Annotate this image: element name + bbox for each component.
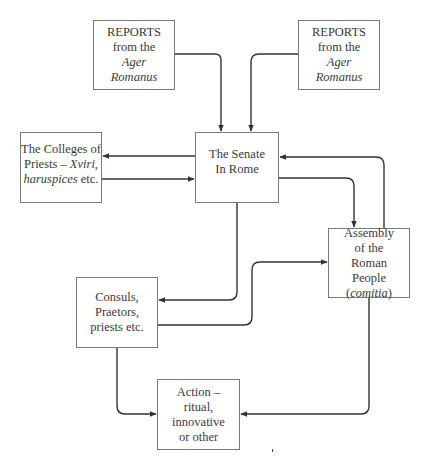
node-label-line: (comitia)	[346, 286, 392, 301]
node-label-line: Praetors,	[95, 305, 139, 320]
label-fragment: Priests –	[24, 157, 70, 171]
node-label-line: Romanus	[111, 70, 158, 85]
edge-reports-right-to-senate	[251, 54, 298, 131]
node-action: Action – ritual, innovative or other	[157, 379, 240, 450]
edge-consuls-to-assembly	[158, 262, 327, 325]
node-label-line: The Colleges of	[21, 142, 101, 157]
node-label-line: from the	[318, 40, 361, 55]
node-label-line: from the	[113, 40, 156, 55]
node-label-line: Action –	[177, 385, 220, 400]
node-consuls-praetors-priests: Consuls, Praetors, priests etc.	[76, 277, 158, 348]
node-label-line: The Senate	[209, 147, 265, 162]
node-label-line: ritual,	[184, 400, 214, 415]
edge-assembly-to-action	[241, 298, 369, 414]
node-label-line: Romanus	[316, 70, 363, 85]
node-label-line: or other	[179, 430, 218, 445]
node-label-line: haruspices etc.	[24, 172, 99, 187]
node-label-line: REPORTS	[107, 25, 161, 40]
node-colleges-of-priests: The Colleges of Priests – Xviri, haruspi…	[20, 132, 102, 203]
edge-assembly-to-senate	[280, 157, 384, 228]
node-label-line: of the	[355, 241, 384, 256]
node-label-line: Priests – Xviri,	[24, 157, 98, 172]
label-fragment-italic: Xviri,	[70, 157, 98, 171]
node-reports-ager-romanus-left: REPORTS from the Ager Romanus	[93, 20, 175, 90]
node-label-line: Ager	[327, 55, 351, 70]
node-label-line: People	[352, 271, 386, 286]
node-label-line: In Rome	[215, 162, 258, 177]
edge-reports-left-to-senate	[175, 54, 221, 131]
label-fragment: )	[388, 286, 392, 300]
label-fragment-italic: comitia	[350, 286, 388, 300]
stray-mark	[272, 449, 273, 452]
node-label-line: Roman	[351, 256, 387, 271]
node-label-line: Ager	[122, 55, 146, 70]
node-assembly-roman-people: Assembly of the Roman People (comitia)	[328, 228, 410, 298]
node-senate-in-rome: The Senate In Rome	[195, 132, 279, 203]
node-label-line: Assembly	[344, 226, 394, 241]
node-label-line: Consuls,	[95, 290, 138, 305]
edge-consuls-to-action	[117, 348, 156, 414]
label-fragment: etc.	[78, 172, 99, 186]
node-label-line: innovative	[172, 415, 225, 430]
node-label-line: REPORTS	[312, 25, 366, 40]
label-fragment-italic: haruspices	[24, 172, 78, 186]
node-reports-ager-romanus-right: REPORTS from the Ager Romanus	[298, 20, 380, 90]
edge-senate-to-assembly	[279, 178, 354, 227]
node-label-line: priests etc.	[90, 320, 143, 335]
edge-senate-to-consuls	[159, 203, 237, 300]
